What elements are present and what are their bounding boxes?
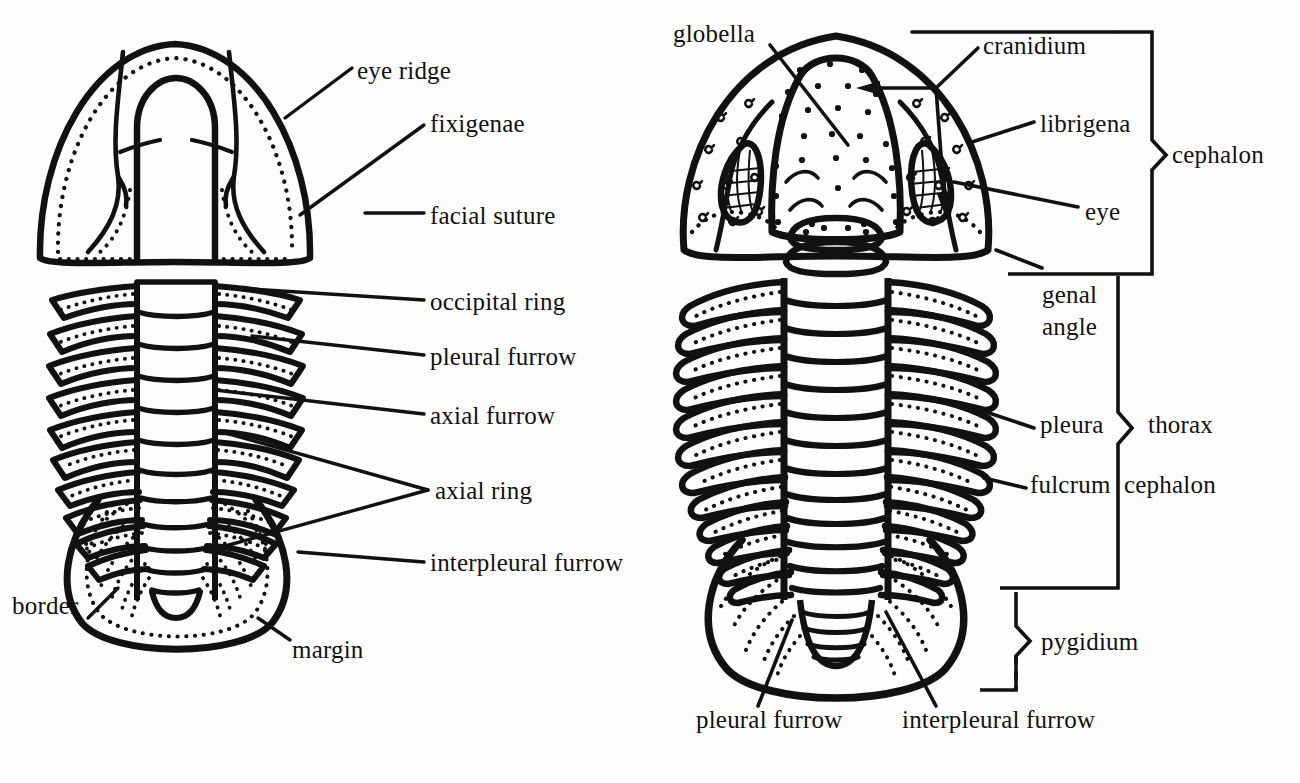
left-trilobite-body (40, 44, 428, 649)
right-glabellar-furrows (786, 172, 886, 210)
label-pleura: pleura (1040, 411, 1104, 439)
right-eye-left (720, 143, 762, 222)
label-eye-ridge: eye ridge (357, 57, 451, 85)
label-genal-angle-line2: angle (1042, 313, 1097, 341)
right-pygidium-outline (708, 540, 963, 698)
right-glabella (772, 58, 901, 240)
diagram-canvas: eye ridge fixigenae facial suture occipi… (0, 0, 1300, 783)
label-cephalon-lower: cephalon (1124, 471, 1216, 499)
label-librigena: librigena (1040, 110, 1131, 138)
label-globella: globella (673, 20, 755, 48)
leader-axial-ring-1 (222, 432, 428, 490)
label-margin: margin (292, 636, 364, 664)
label-occipital-ring: occipital ring (430, 288, 565, 316)
label-interpleural-furrow-bottom: interpleural furrow (902, 706, 1095, 734)
label-axial-ring: axial ring (435, 477, 532, 505)
bracket-cephalon (1008, 32, 1166, 274)
label-border: border (12, 592, 78, 620)
leader-eye (954, 182, 1078, 207)
leader-eye-ridge (285, 68, 352, 118)
right-pygidium (708, 540, 963, 698)
left-facial-suture-left (88, 52, 123, 252)
left-glabella (137, 78, 215, 258)
leader-fixigenae (300, 125, 424, 215)
label-pygidium-bracket: pygidium (1041, 628, 1138, 656)
label-facial-suture: facial suture (430, 202, 555, 230)
label-fixigenae: fixigenae (430, 110, 525, 138)
label-genal-angle-line1: genal (1042, 281, 1097, 309)
label-cephalon-bracket: cephalon (1172, 141, 1264, 169)
leader-cranidium-to-arrow (936, 48, 978, 88)
label-cranidium: cranidium (983, 32, 1086, 60)
right-thorax (676, 278, 996, 603)
leader-occipital-ring (218, 287, 424, 300)
label-eye: eye (1085, 198, 1120, 226)
label-fulcrum: fulcrum (1030, 471, 1111, 499)
label-axial-furrow: axial furrow (430, 402, 555, 430)
leader-librigena (972, 122, 1034, 142)
label-thorax-bracket: thorax (1148, 411, 1213, 439)
left-pygidium-axis (152, 592, 200, 618)
label-pleural-furrow: pleural furrow (430, 343, 577, 371)
label-pleural-furrow-bottom: pleural furrow (696, 706, 843, 734)
right-axial-rings (785, 300, 887, 593)
cranidium-arrow-left (856, 81, 936, 95)
leader-genal-angle (996, 250, 1042, 268)
bracket-pygidium (980, 592, 1030, 690)
left-axial-rings (138, 312, 214, 593)
leader-interpleural-furrow (298, 552, 424, 562)
label-interpleural-furrow: interpleural furrow (430, 549, 623, 577)
